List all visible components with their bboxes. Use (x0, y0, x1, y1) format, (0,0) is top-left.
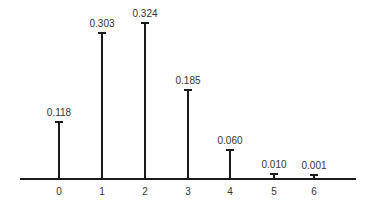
stem-bar (58, 121, 60, 178)
stem-bar (187, 89, 189, 178)
x-tick-label: 1 (99, 186, 105, 197)
stem-bar (229, 149, 231, 178)
value-label: 0.185 (175, 75, 200, 86)
stem-bar (101, 32, 103, 178)
value-label: 0.324 (132, 8, 157, 19)
stem-cap (226, 149, 234, 151)
x-tick-label: 5 (271, 186, 277, 197)
stem-cap (310, 174, 318, 176)
value-label: 0.001 (301, 160, 326, 171)
stem-cap (55, 121, 63, 123)
stem-cap (270, 173, 278, 175)
value-label: 0.060 (217, 135, 242, 146)
x-tick-label: 2 (142, 186, 148, 197)
x-tick-label: 0 (56, 186, 62, 197)
x-axis-line (20, 178, 356, 180)
probability-stem-chart: 0.11800.30310.32420.18530.06040.01050.00… (0, 0, 376, 209)
x-tick-label: 3 (185, 186, 191, 197)
value-label: 0.010 (261, 159, 286, 170)
stem-cap (98, 32, 106, 34)
x-tick-label: 6 (311, 186, 317, 197)
stem-cap (141, 22, 149, 24)
stem-bar (144, 22, 146, 178)
value-label: 0.303 (89, 18, 114, 29)
x-tick-label: 4 (227, 186, 233, 197)
stem-cap (184, 89, 192, 91)
value-label: 0.118 (47, 107, 71, 118)
